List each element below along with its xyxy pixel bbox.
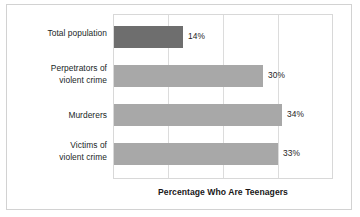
bar-victims-of-violent-crime bbox=[114, 143, 278, 165]
gridline bbox=[278, 15, 279, 178]
bar-total-population bbox=[114, 26, 183, 48]
chart-figure: Total population Perpetrators of violent… bbox=[6, 4, 352, 210]
x-axis-title: Percentage Who Are Teenagers bbox=[113, 187, 333, 197]
category-label-line: Murderers bbox=[7, 110, 107, 122]
bar-perpetrators-of-violent-crime bbox=[114, 65, 263, 87]
plot-area: 14% 30% 34% 33% bbox=[113, 14, 333, 179]
bar-value-label: 34% bbox=[287, 109, 304, 119]
category-label-line: Victims of bbox=[7, 140, 107, 152]
bar-value-label: 14% bbox=[188, 31, 205, 41]
category-label-line: violent crime bbox=[7, 152, 107, 164]
bar-murderers bbox=[114, 104, 282, 126]
category-label-line: Total population bbox=[7, 28, 107, 40]
category-label: Victims of violent crime bbox=[7, 140, 107, 163]
category-label: Perpetrators of violent crime bbox=[7, 63, 107, 86]
bar-value-label: 30% bbox=[268, 70, 285, 80]
category-label-line: violent crime bbox=[7, 75, 107, 87]
category-label: Total population bbox=[7, 28, 107, 40]
bar-value-label: 33% bbox=[283, 148, 300, 158]
category-axis-labels: Total population Perpetrators of violent… bbox=[7, 14, 107, 179]
category-label: Murderers bbox=[7, 110, 107, 122]
category-label-line: Perpetrators of bbox=[7, 63, 107, 75]
